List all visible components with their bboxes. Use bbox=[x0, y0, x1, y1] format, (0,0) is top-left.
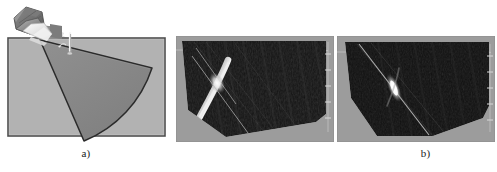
bmode-image-b bbox=[176, 36, 334, 142]
caption-panel-a: a) bbox=[0, 147, 172, 159]
panel-c: c) bbox=[335, 0, 497, 172]
figure-container: a) bbox=[0, 0, 497, 172]
panel-a-graphic bbox=[0, 0, 172, 150]
panel-b: b) bbox=[172, 0, 335, 172]
panel-a: a) bbox=[0, 0, 172, 172]
bmode-image-c bbox=[337, 36, 495, 142]
schematic-svg bbox=[0, 0, 172, 150]
